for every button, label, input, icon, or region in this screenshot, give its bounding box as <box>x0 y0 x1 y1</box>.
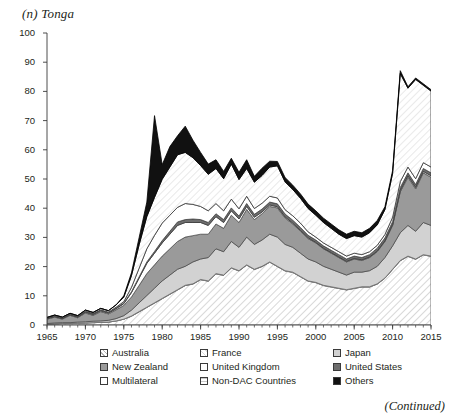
y-tick-label: 70 <box>9 115 35 126</box>
x-tick-label: 1980 <box>145 331 179 342</box>
legend-item-new-zealand[interactable]: New Zealand <box>100 362 200 372</box>
legend-item-non-dac-countries[interactable]: Non-DAC Countries <box>200 376 333 386</box>
x-axis-major-ticks <box>47 325 431 330</box>
figure-panel: (n) Tonga 0102030405060708090100 196519 <box>0 0 455 419</box>
y-tick-label: 50 <box>9 173 35 184</box>
y-axis-ticks <box>43 33 47 325</box>
legend-swatch-icon <box>333 349 341 357</box>
legend-swatch-icon <box>200 349 208 357</box>
x-tick-label: 2000 <box>299 331 333 342</box>
y-tick-label: 90 <box>9 56 35 67</box>
legend-swatch-icon <box>333 377 341 385</box>
x-tick-label: 2015 <box>414 331 448 342</box>
y-tick-label: 40 <box>9 202 35 213</box>
legend-item-australia[interactable]: Australia <box>100 348 200 358</box>
legend-item-united-states[interactable]: United States <box>333 362 440 372</box>
legend-swatch-icon <box>100 349 108 357</box>
legend-swatch-icon <box>333 363 341 371</box>
legend-item-label: United States <box>345 362 402 372</box>
x-tick-label: 2005 <box>337 331 371 342</box>
x-tick-label: 1975 <box>107 331 141 342</box>
y-tick-label: 80 <box>9 85 35 96</box>
legend-item-label: New Zealand <box>112 362 168 372</box>
legend-item-label: Multilateral <box>112 376 158 386</box>
y-tick-label: 0 <box>9 319 35 330</box>
y-tick-label: 30 <box>9 231 35 242</box>
legend-swatch-icon <box>200 363 208 371</box>
chart-legend: AustraliaFranceJapanNew ZealandUnited Ki… <box>100 346 440 388</box>
x-tick-label: 1985 <box>184 331 218 342</box>
legend-item-united-kingdom[interactable]: United Kingdom <box>200 362 333 372</box>
y-tick-label: 20 <box>9 261 35 272</box>
legend-item-japan[interactable]: Japan <box>333 348 440 358</box>
x-tick-label: 1965 <box>30 331 64 342</box>
x-tick-label: 2010 <box>376 331 410 342</box>
legend-swatch-icon <box>100 377 108 385</box>
y-tick-label: 10 <box>9 290 35 301</box>
legend-swatch-icon <box>100 363 108 371</box>
x-tick-label: 1970 <box>68 331 102 342</box>
legend-item-label: United Kingdom <box>212 362 280 372</box>
legend-item-label: Non-DAC Countries <box>212 376 296 386</box>
legend-item-label: Australia <box>112 348 149 358</box>
x-tick-label: 1995 <box>260 331 294 342</box>
legend-item-france[interactable]: France <box>200 348 333 358</box>
x-tick-label: 1990 <box>222 331 256 342</box>
legend-item-label: Others <box>345 376 374 386</box>
legend-item-label: Japan <box>345 348 371 358</box>
y-tick-label: 100 <box>9 27 35 38</box>
legend-swatch-icon <box>200 377 208 385</box>
continued-note: (Continued) <box>385 399 445 414</box>
y-tick-label: 60 <box>9 144 35 155</box>
legend-item-others[interactable]: Others <box>333 376 440 386</box>
chart-series-layers <box>47 71 431 325</box>
legend-item-multilateral[interactable]: Multilateral <box>100 376 200 386</box>
legend-item-label: France <box>212 348 242 358</box>
